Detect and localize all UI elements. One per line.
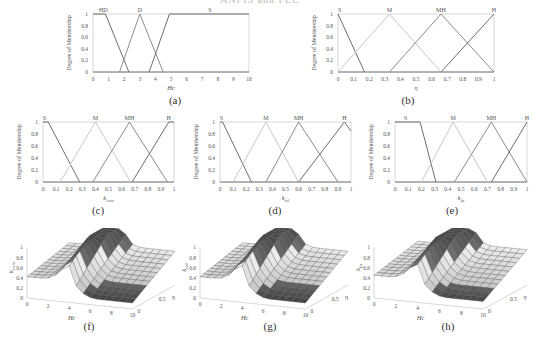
chart-h: 00.20.40.60.81024681000.51Hcηkfa [352, 228, 528, 320]
x-tick-label: 0 [42, 186, 45, 192]
y-tick-label: 0.4 [81, 46, 88, 52]
caption-h: (h) [428, 320, 468, 332]
x-tick-label: 0.1 [350, 76, 357, 82]
y-axis-label: Degree of Membership [193, 124, 199, 180]
x-tick-label: 4 [68, 305, 71, 311]
x-axis-label: Hc [416, 314, 425, 320]
x-tick-label: 6 [262, 308, 265, 314]
series-label: HD [99, 7, 108, 13]
x-tick-label: 3 [138, 76, 141, 82]
z-axis-label: ktol [180, 263, 189, 272]
y-tick-label: 1 [35, 119, 38, 125]
x-tick-label: 0.7 [484, 186, 491, 192]
x-tick-label: 0.2 [243, 186, 250, 192]
series-label: S [208, 7, 211, 13]
y-tick-label: 0.6 [31, 143, 38, 149]
series-label: D [138, 7, 143, 13]
series-label: MH [294, 115, 304, 121]
y-axis-label: η [345, 293, 348, 300]
series-mh [389, 14, 494, 72]
x-tick-label: 0 [373, 301, 376, 307]
y-tick-label: 0.4 [208, 155, 215, 161]
x-tick-label: 0 [92, 76, 95, 82]
z-axis-label: kfa [354, 264, 363, 271]
x-tick-label: 6 [438, 308, 441, 314]
x-tick-label: 0.1 [53, 186, 60, 192]
y-tick-label: 0 [330, 69, 333, 75]
x-tick-label: 0.5 [105, 186, 112, 192]
chart-b: 00.20.40.60.8100.10.20.30.40.50.60.70.80… [300, 4, 500, 96]
y-tick-label: 0.6 [208, 143, 215, 149]
x-tick-label: 0.6 [471, 186, 478, 192]
y-tick-label: 0.4 [326, 46, 333, 52]
y-axis-label: Degree of Membership [66, 15, 72, 71]
x-tick-label: 0.9 [157, 186, 164, 192]
z-tick-label: 0.8 [363, 255, 370, 261]
x-tick-label: 4 [154, 76, 157, 82]
x-tick-label: 0.8 [459, 76, 466, 82]
series-s [338, 14, 365, 72]
x-tick-label: 0.6 [295, 186, 302, 192]
y-tick-label: 0 [310, 308, 313, 314]
y-axis-label: Degree of Membership [368, 124, 374, 180]
x-tick-label: 0.5 [458, 186, 465, 192]
y-axis-label: η [524, 293, 527, 300]
y-tick-label: 0.8 [81, 23, 88, 29]
x-axis-label: Hc [166, 84, 175, 91]
x-tick-label: 8 [216, 76, 219, 82]
x-tick-label: 9 [232, 76, 235, 82]
z-tick-label: 0.2 [16, 285, 23, 291]
y-tick-label: 1 [85, 11, 88, 17]
y-tick-label: 0 [387, 179, 390, 185]
chart-d: 00.20.40.60.8100.10.20.30.40.50.60.70.80… [182, 112, 357, 206]
z-tick-label: 0.2 [363, 285, 370, 291]
y-tick-label: 1 [212, 119, 215, 125]
z-tick-label: 0.4 [189, 275, 196, 281]
series-label: MH [487, 115, 497, 121]
x-tick-label: 2 [394, 303, 397, 309]
series-mh [266, 122, 338, 182]
x-axis-label: kcom [103, 194, 114, 203]
x-axis-label: η [414, 84, 417, 91]
x-tick-label: 6 [89, 308, 92, 314]
series-mh [93, 122, 168, 182]
x-tick-label: 2 [123, 76, 126, 82]
x-tick-label: 0.4 [269, 186, 276, 192]
chart-a: 00.20.40.60.81012345678910HcDegree of Me… [55, 4, 255, 96]
y-tick-label: 0 [137, 308, 140, 314]
series-label: H [167, 115, 172, 121]
series-m [60, 122, 131, 182]
y-tick-label: 1 [330, 11, 333, 17]
series-label: S [43, 115, 46, 121]
x-tick-label: 0.1 [405, 186, 412, 192]
series-label: M [93, 115, 99, 121]
x-tick-label: 2 [220, 303, 223, 309]
y-tick-label: 0.2 [383, 167, 390, 173]
series-mh [454, 122, 527, 182]
y-tick-label: 0.2 [208, 167, 215, 173]
series-label: H [492, 7, 497, 13]
x-tick-label: 0 [26, 301, 29, 307]
y-tick-label: 0.8 [208, 131, 215, 137]
x-tick-label: 0 [337, 76, 340, 82]
x-tick-label: 1 [526, 186, 529, 192]
z-tick-label: 0.6 [363, 265, 370, 271]
series-label: S [404, 115, 407, 121]
series-label: M [387, 7, 393, 13]
x-tick-label: 7 [201, 76, 204, 82]
series-m [338, 14, 441, 72]
y-tick-label: 0.6 [326, 34, 333, 40]
y-tick-label: 0.5 [510, 296, 517, 302]
x-tick-label: 0.2 [418, 186, 425, 192]
x-tick-label: 4 [416, 305, 419, 311]
chart-e: 00.20.40.60.8100.10.20.30.40.50.60.70.80… [357, 112, 533, 206]
z-tick-label: 0.8 [189, 255, 196, 261]
y-tick-label: 0.6 [383, 143, 390, 149]
series-s [220, 122, 251, 182]
x-tick-label: 8 [110, 310, 113, 316]
series-s [395, 122, 436, 182]
y-tick-label: 0 [488, 308, 491, 314]
y-tick-label: 0.5 [332, 296, 339, 302]
z-tick-label: 0.4 [16, 275, 23, 281]
x-tick-label: 6 [185, 76, 188, 82]
